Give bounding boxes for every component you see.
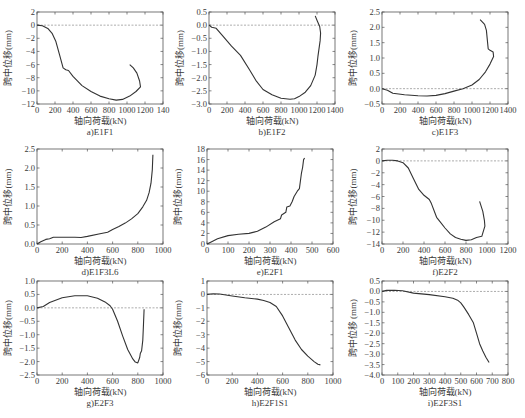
x-tick-label: 200 <box>56 245 69 255</box>
y-tick-label: −10 <box>367 215 380 225</box>
x-tick-label: 1000 <box>479 245 496 255</box>
x-tick-label: 600 <box>430 105 443 115</box>
y-axis-label: 跨中位移(mm) <box>2 169 13 225</box>
y-tick-label: −1.0 <box>365 307 380 317</box>
chart-caption: d)E1F3L6 <box>82 267 119 277</box>
x-tick-label: 200 <box>407 376 420 386</box>
y-tick-label: 1 <box>201 276 205 286</box>
plot-frame <box>382 149 508 244</box>
x-tick-label: 400 <box>239 105 252 115</box>
y-tick-label: 0.0 <box>196 20 207 30</box>
data-line-E2F1 <box>207 158 305 244</box>
y-tick-label: −2 <box>371 168 380 178</box>
chart-d: 020040060080010002.52.01.51.00.50.0轴向荷载(… <box>2 144 172 277</box>
x-tick-label: 600 <box>327 245 340 255</box>
x-tick-label: 400 <box>81 376 94 386</box>
x-tick-label: 1000 <box>119 105 136 115</box>
chart-caption: e)E2F1 <box>257 267 284 277</box>
x-tick-label: 600 <box>85 105 98 115</box>
y-tick-label: −1.5 <box>20 343 35 353</box>
x-tick-label: 400 <box>67 105 80 115</box>
x-tick-label: 800 <box>502 376 515 386</box>
x-tick-label: 200 <box>56 376 69 386</box>
x-tick-label: 0 <box>380 105 384 115</box>
x-tick-label: 800 <box>460 245 473 255</box>
y-tick-label: −1.0 <box>192 46 207 56</box>
y-tick-label: −2.0 <box>365 328 380 338</box>
y-tick-label: 2 <box>201 228 205 238</box>
x-tick-label: 200 <box>226 376 239 386</box>
y-tick-label: −6 <box>26 60 35 70</box>
chart-caption: h)E2F1S1 <box>252 398 289 408</box>
x-axis-label: 轴向荷载(kN) <box>246 115 299 126</box>
data-line-E2F3 <box>37 296 144 363</box>
x-tick-label: 0 <box>380 245 384 255</box>
plot-frame <box>209 12 335 104</box>
x-tick-label: 100 <box>391 376 404 386</box>
chart-caption: g)E2F3 <box>87 398 115 408</box>
figure-grid: 02004006008001000120014020−2−4−6−8−10−12… <box>0 0 525 418</box>
x-tick-label: 1200 <box>500 245 517 255</box>
y-tick-label: −10 <box>22 86 35 96</box>
x-tick-label: 800 <box>301 376 314 386</box>
x-tick-label: 800 <box>131 376 144 386</box>
chart-a: 02004006008001000120014020−2−4−6−8−10−12… <box>2 7 169 137</box>
x-tick-label: 400 <box>418 245 431 255</box>
y-tick-label: 1.0 <box>24 276 35 286</box>
y-tick-label: 2.0 <box>24 163 35 173</box>
y-tick-label: −2 <box>196 316 205 326</box>
y-tick-label: 0.0 <box>24 303 35 313</box>
x-tick-label: 1400 <box>500 105 517 115</box>
x-axis-label: 轴向荷载(kN) <box>74 255 127 266</box>
chart-c: 02004006008001000120014002.52.01.51.00.5… <box>347 7 517 137</box>
x-tick-label: 600 <box>257 105 270 115</box>
x-tick-label: 400 <box>285 245 298 255</box>
x-axis-label: 轴向荷载(kN) <box>74 115 127 126</box>
x-tick-label: 500 <box>454 376 467 386</box>
x-axis-label: 轴向荷载(kN) <box>419 386 472 397</box>
y-tick-label: 1.0 <box>369 53 380 63</box>
y-tick-label: 0.5 <box>24 289 35 299</box>
x-tick-label: 1000 <box>464 105 481 115</box>
y-axis-label: 跨中位移(mm) <box>172 300 183 356</box>
plot-frame <box>37 12 163 104</box>
data-line-E1F2 <box>209 16 321 99</box>
plot-frame <box>207 149 333 244</box>
y-tick-label: 10 <box>197 186 206 196</box>
y-tick-label: −1.5 <box>365 318 380 328</box>
y-tick-label: −0.5 <box>365 297 380 307</box>
x-axis-label: 轴向荷载(kN) <box>244 386 297 397</box>
plot-frame <box>37 149 163 244</box>
y-tick-label: 4 <box>201 218 206 228</box>
x-tick-label: 400 <box>81 245 94 255</box>
chart-f: 02004006008001000120020−2−4−6−8−10−12−14… <box>347 144 517 277</box>
y-tick-label: −3.0 <box>365 349 380 359</box>
y-axis-label: 跨中位移 (mm) <box>347 299 358 357</box>
x-tick-label: 0 <box>205 376 209 386</box>
x-tick-label: 400 <box>439 376 452 386</box>
x-tick-label: 0 <box>35 245 39 255</box>
y-tick-label: −5 <box>196 357 205 367</box>
y-tick-label: −4 <box>196 343 206 353</box>
x-tick-label: 800 <box>131 245 144 255</box>
y-tick-label: −2.0 <box>20 357 35 367</box>
x-tick-label: 200 <box>49 105 62 115</box>
chart-caption: c)E1F3 <box>432 127 459 137</box>
y-tick-label: −6 <box>371 192 380 202</box>
x-tick-label: 1000 <box>325 376 342 386</box>
y-axis-label: 跨中位移(mm) <box>174 30 185 86</box>
y-tick-label: −4.0 <box>365 370 380 380</box>
y-tick-label: 0 <box>31 20 35 30</box>
data-line-E1F3L6 <box>37 155 153 244</box>
y-tick-label: −0.5 <box>20 316 35 326</box>
x-axis-label: 轴向荷载(kN) <box>244 255 297 266</box>
y-tick-label: −0.5 <box>192 33 207 43</box>
chart-caption: b)E1F2 <box>259 127 286 137</box>
y-tick-label: −4 <box>371 180 381 190</box>
y-tick-label: 6 <box>201 207 205 217</box>
x-tick-label: 800 <box>275 105 288 115</box>
y-tick-label: −3 <box>196 330 205 340</box>
y-tick-label: −6 <box>196 370 205 380</box>
y-tick-label: 0.5 <box>196 7 207 17</box>
x-tick-label: 400 <box>251 376 264 386</box>
